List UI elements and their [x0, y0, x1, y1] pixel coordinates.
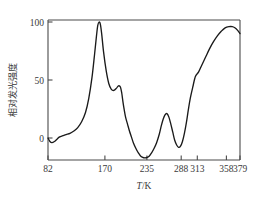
- tl-curve-chart: 100 50 0 82 170 235 288 313 358 379 T/K …: [0, 0, 260, 198]
- x-tick-label-358: 358: [219, 164, 234, 174]
- y-tick-label-0: 0: [39, 134, 44, 144]
- y-tick-label-50: 50: [35, 76, 45, 86]
- x-tick-label-288: 288: [174, 164, 189, 174]
- y-axis-title: 相对发光强度: [7, 63, 18, 117]
- x-axis-title: T/K: [137, 181, 152, 191]
- chart-container: 100 50 0 82 170 235 288 313 358 379 T/K …: [0, 0, 260, 198]
- y-tick-label-100: 100: [30, 18, 45, 28]
- x-tick-label-313: 313: [190, 164, 205, 174]
- x-tick-label-82: 82: [43, 164, 53, 174]
- x-axis-title-unit: /K: [142, 181, 152, 191]
- x-tick-label-235: 235: [140, 164, 155, 174]
- x-tick-label-170: 170: [98, 164, 113, 174]
- x-tick-label-379: 379: [233, 164, 248, 174]
